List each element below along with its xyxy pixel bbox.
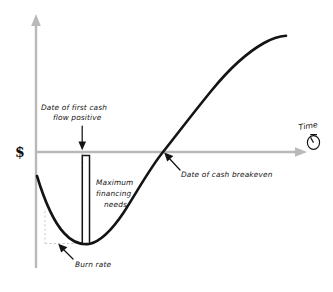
annotation-cash-breakeven-label: Date of cash breakeven [181, 170, 273, 179]
cash-flow-jcurve-diagram: $ Time Date of first cash flow positive [0, 0, 333, 292]
x-axis-arrowhead [295, 147, 307, 157]
y-axis [31, 14, 41, 268]
annotation-first-cash-flow-positive-line2: flow positive [53, 113, 102, 122]
annotation-first-cash-flow-positive-arrowhead [78, 141, 86, 150]
annotation-first-cash-flow-positive: Date of first cash flow positive [41, 103, 107, 150]
maximum-financing-needs-bar [82, 156, 89, 244]
y-axis-arrowhead [31, 14, 41, 26]
cumulative-cash-flow-curve [37, 36, 286, 244]
annotation-cash-breakeven-arrowhead [164, 153, 173, 162]
burn-rate-guide [45, 211, 83, 244]
annotation-cash-breakeven: Date of cash breakeven [164, 153, 272, 179]
stopwatch-icon [307, 135, 319, 150]
x-axis-label-time: Time [298, 120, 319, 132]
annotation-burn-rate-label: Burn rate [75, 260, 111, 269]
annotation-maximum-financing-needs-line1: Maximum [96, 178, 133, 187]
annotation-maximum-financing-needs-line2: financing [96, 189, 132, 198]
annotation-burn-rate: Burn rate [58, 244, 111, 269]
annotation-first-cash-flow-positive-line1: Date of first cash [41, 103, 107, 112]
annotation-maximum-financing-needs-line3: needs [104, 200, 127, 209]
y-axis-label-dollar: $ [15, 144, 25, 160]
diagram-canvas: $ Time Date of first cash flow positive [0, 0, 333, 292]
